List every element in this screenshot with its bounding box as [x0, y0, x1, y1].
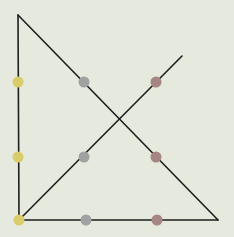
mauve-dot-bottom: [152, 215, 163, 226]
mauve-dot-middle: [151, 152, 162, 163]
left-vertical-line: [18, 15, 19, 220]
gray-dot-top: [79, 77, 90, 88]
yellow-dot-middle: [13, 152, 24, 163]
diagram-canvas: [0, 0, 234, 237]
yellow-dot-top: [13, 77, 24, 88]
gray-dot-bottom: [81, 215, 92, 226]
yellow-dot-corner: [14, 215, 25, 226]
gray-dot-middle: [79, 152, 90, 163]
diagram-svg: [0, 0, 234, 237]
mauve-dot-top: [151, 77, 162, 88]
